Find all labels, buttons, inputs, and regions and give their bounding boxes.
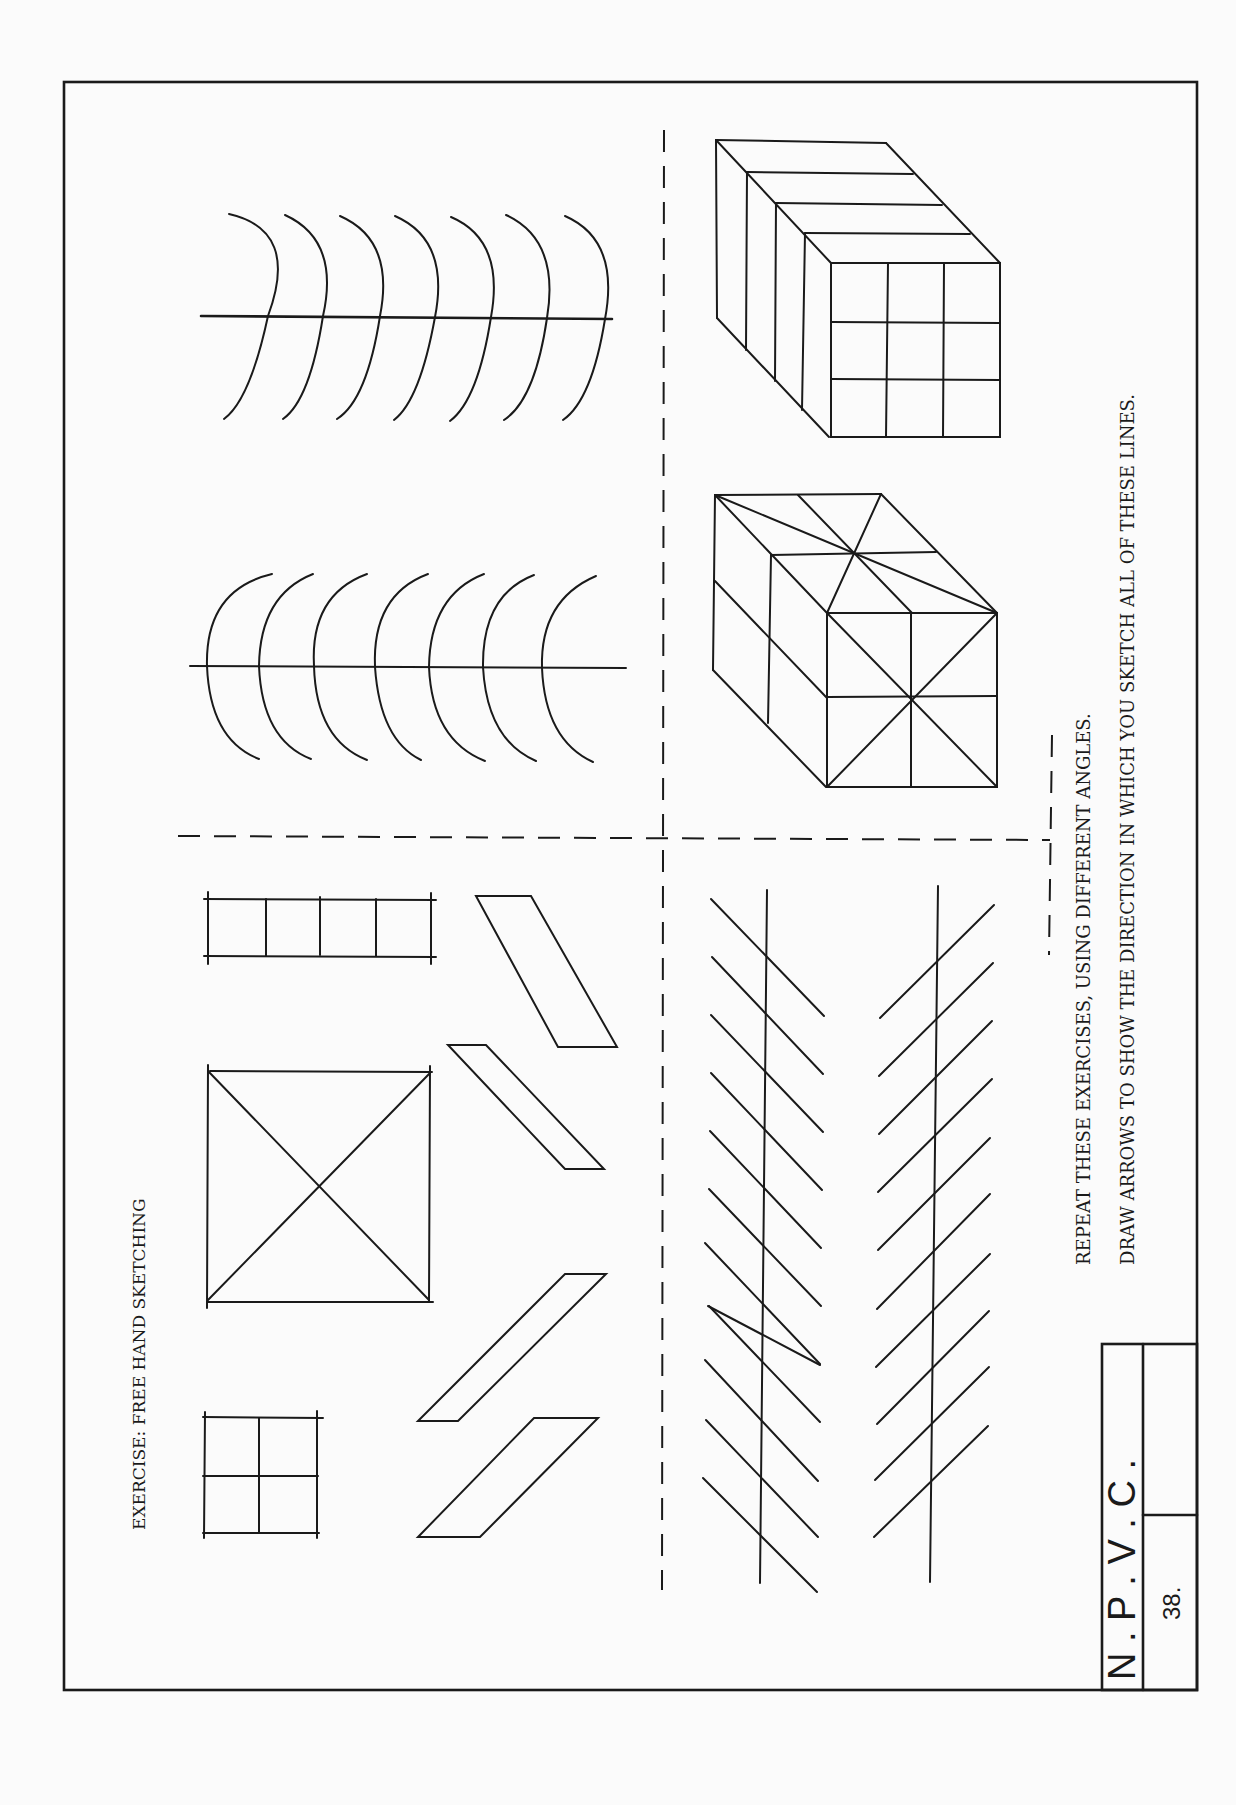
ladder-rectangle <box>204 892 436 964</box>
worksheet-page: N . P . V . C . 38. EXERCISE: FREE HAND … <box>0 0 1236 1805</box>
arcs-concave-left <box>190 574 626 762</box>
herringbone-left <box>703 890 824 1592</box>
page-number: 38. <box>1158 1587 1185 1620</box>
page-title: EXERCISE: FREE HAND SKETCHING <box>129 1198 149 1530</box>
instruction-line-1: REPEAT THESE EXERCISES, USING DIFFERENT … <box>1073 713 1094 1265</box>
page-border <box>64 82 1197 1690</box>
divider-lines <box>178 130 1052 1590</box>
cube-diagonals <box>713 494 997 787</box>
square-with-x <box>207 1065 433 1308</box>
instruction-line-2: DRAW ARROWS TO SHOW THE DIRECTION IN WHI… <box>1117 394 1138 1265</box>
organization-label: N . P . V . C . <box>1101 1459 1143 1680</box>
herringbone-right <box>874 886 994 1582</box>
cube-grid <box>716 140 1000 437</box>
parallelograms <box>418 896 617 1537</box>
square-quadrants <box>203 1411 323 1538</box>
title-block: N . P . V . C . 38. <box>1101 1344 1197 1690</box>
arcs-concave-right <box>201 214 612 421</box>
